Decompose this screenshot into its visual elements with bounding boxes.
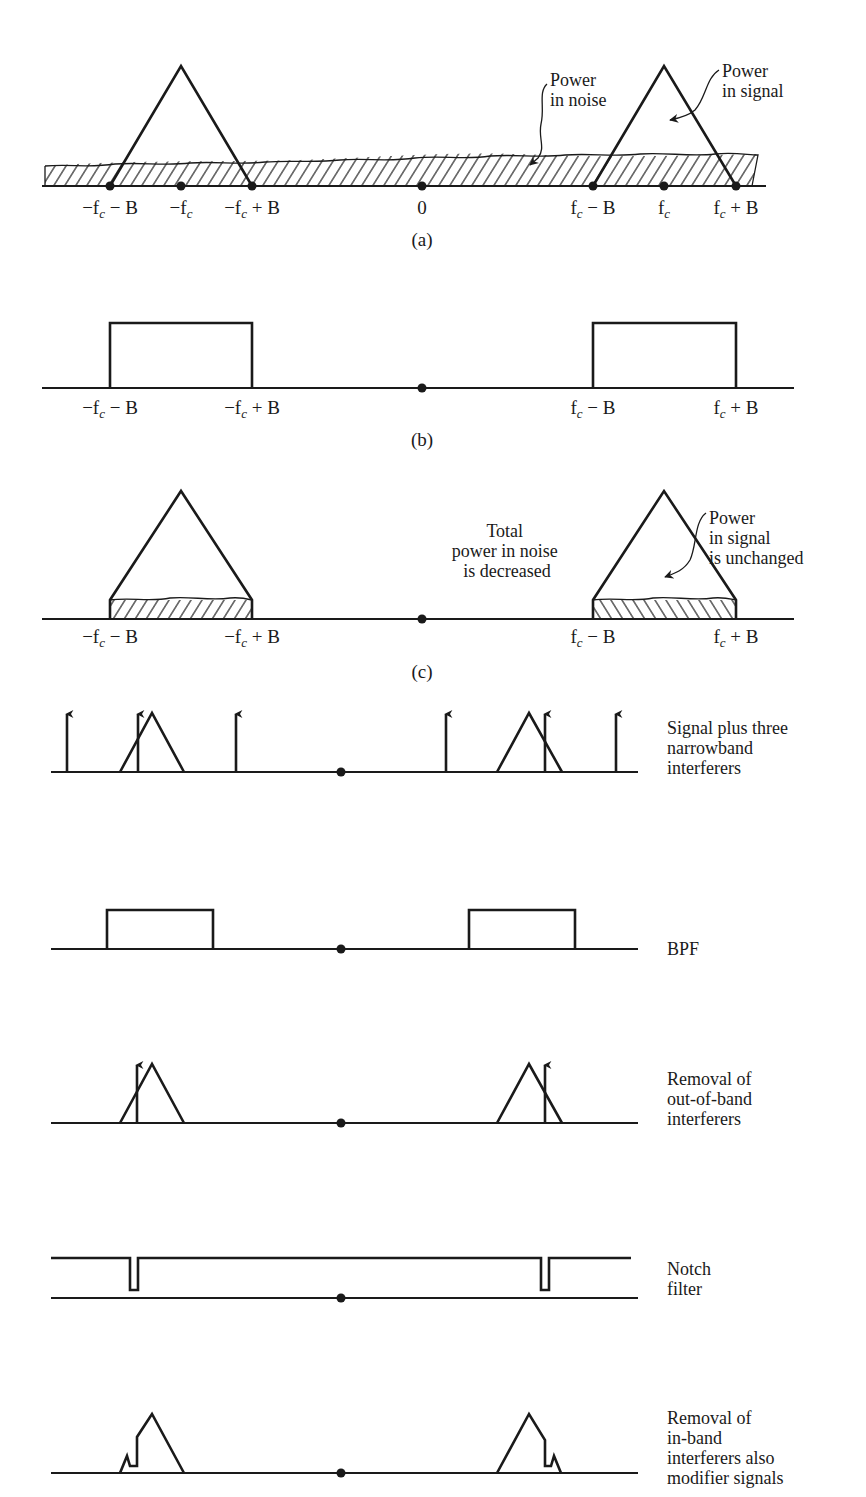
origin-dot — [418, 384, 427, 393]
panel-a: −fc − B −fc −fc + B 0 fc − B fc fc + B P… — [42, 61, 784, 251]
stage-label: Removal of out-of-band interferers — [667, 1069, 756, 1129]
origin-dot — [418, 182, 427, 191]
noise-floor-band — [45, 153, 758, 186]
annotation-noise-decreased: Total power in noise is decreased — [452, 521, 562, 581]
tick-dot — [106, 182, 115, 191]
notch-filter-response — [51, 1258, 631, 1290]
label-fc-plus-b: fc + B — [714, 397, 759, 421]
spectrum-figure: −fc − B −fc −fc + B 0 fc − B fc fc + B P… — [0, 0, 866, 1497]
tick-label-zero: 0 — [417, 197, 427, 218]
tick-dot — [589, 182, 598, 191]
tick-label-fc-plus-b: fc + B — [714, 197, 759, 221]
origin-dot — [337, 945, 346, 954]
signal-triangle-positive — [497, 713, 562, 772]
noise-top-positive — [593, 598, 736, 600]
annotation-power-in-signal: Power in signal — [722, 61, 784, 101]
origin-dot — [418, 615, 427, 624]
stage-label: Removal of in-band interferers also modi… — [667, 1408, 783, 1488]
label-neg-fc-minus-b: −fc − B — [82, 397, 138, 421]
stage-label: BPF — [667, 939, 699, 959]
panel-c: −fc − B −fc + B fc − B fc + B Total powe… — [42, 491, 803, 683]
noise-in-passband-negative — [110, 600, 252, 619]
stage-bpf: BPF — [51, 910, 699, 959]
bpf-passband-negative — [110, 323, 252, 388]
bpf-passband-positive — [593, 323, 736, 388]
signal-triangle-negative — [120, 1064, 184, 1123]
tick-dot — [660, 182, 669, 191]
label-fc-plus-b: fc + B — [714, 626, 759, 650]
tick-label-neg-fc: −fc — [170, 197, 193, 221]
tick-label-fc-minus-b: fc − B — [571, 197, 616, 221]
tick-label-neg-fc-plus-b: −fc + B — [224, 197, 280, 221]
signal-triangle-negative — [120, 713, 184, 772]
noise-top-negative — [110, 598, 252, 600]
bpf-passband-negative — [107, 910, 213, 949]
noise-in-passband-positive — [593, 600, 736, 619]
label-neg-fc-minus-b: −fc − B — [82, 626, 138, 650]
bpf-passband-positive — [469, 910, 575, 949]
label-fc-minus-b: fc − B — [571, 397, 616, 421]
modified-signal-positive — [497, 1414, 561, 1473]
modified-signal-negative — [120, 1414, 184, 1473]
origin-dot — [337, 1469, 346, 1478]
annotation-power-in-noise: Power in noise — [550, 70, 607, 110]
label-neg-fc-plus-b: −fc + B — [224, 397, 280, 421]
panel-b: −fc − B −fc + B fc − B fc + B (b) — [42, 323, 794, 451]
stage-out-of-band-removal: Removal of out-of-band interferers — [51, 1064, 756, 1129]
tick-label-fc: fc — [658, 197, 670, 221]
noise-annotation-leader — [530, 84, 547, 165]
label-fc-minus-b: fc − B — [571, 626, 616, 650]
caption-c: (c) — [411, 661, 432, 683]
origin-dot — [337, 1294, 346, 1303]
stage-notch-filter: Notch filter — [51, 1258, 716, 1303]
stage-label: Notch filter — [667, 1259, 716, 1299]
stage-label: Signal plus three narrowband interferers — [667, 718, 792, 778]
signal-triangle-positive — [497, 1064, 562, 1123]
caption-a: (a) — [411, 229, 432, 251]
tick-dot — [732, 182, 741, 191]
origin-dot — [337, 1119, 346, 1128]
signal-triangle-negative-filtered — [110, 491, 252, 619]
stage-signal-plus-interferers: Signal plus three narrowband interferers — [51, 713, 792, 778]
label-neg-fc-plus-b: −fc + B — [224, 626, 280, 650]
origin-dot — [337, 768, 346, 777]
annotation-signal-unchanged: Power in signal is unchanged — [709, 508, 803, 568]
tick-dot — [177, 182, 186, 191]
stage-in-band-removal: Removal of in-band interferers also modi… — [51, 1408, 783, 1488]
caption-b: (b) — [411, 429, 433, 451]
tick-dot — [248, 182, 257, 191]
tick-label-neg-fc-minus-b: −fc − B — [82, 197, 138, 221]
signal-annotation-leader — [670, 70, 719, 120]
